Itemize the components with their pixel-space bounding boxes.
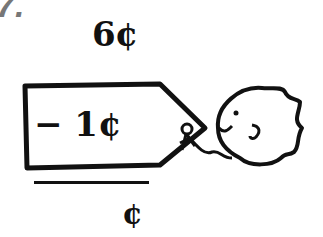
answer-line xyxy=(34,181,149,184)
fish-icon xyxy=(218,88,302,165)
subtrahend-amount: − 1¢ xyxy=(34,104,122,144)
answer-unit: ¢ xyxy=(122,196,143,231)
